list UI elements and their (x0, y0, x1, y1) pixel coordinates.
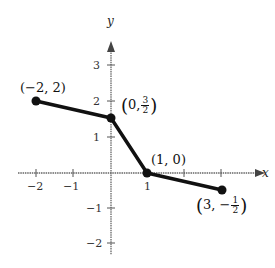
y-tick-label: −1 (86, 203, 102, 214)
point-label-0-3half: (0,32) (121, 96, 157, 115)
x-tick-label: −2 (27, 181, 43, 192)
y-tick-label: 1 (93, 132, 100, 143)
point-label-1-0: (1, 0) (151, 153, 186, 166)
y-axis-arrow-icon (107, 41, 115, 52)
point-label-3-neg-half: (3, −12) (196, 196, 247, 215)
x-tick-label: 1 (144, 181, 151, 192)
y-tick-label: −2 (86, 238, 102, 249)
point-label-neg2-2: (−2, 2) (20, 81, 66, 94)
x-axis-label: x (262, 166, 269, 180)
y-tick-label: 2 (93, 96, 100, 107)
y-axis-label: y (107, 14, 114, 28)
x-tick-label: −1 (63, 181, 79, 192)
graph-canvas (0, 0, 275, 268)
y-tick-label: 3 (93, 60, 100, 71)
